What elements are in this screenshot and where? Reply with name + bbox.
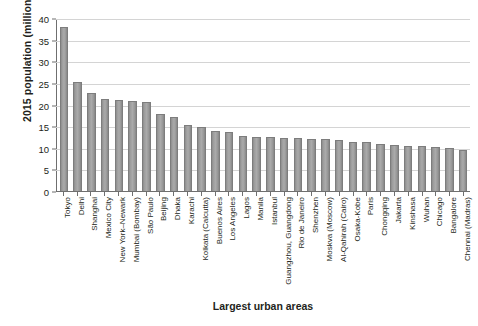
x-axis-tick-mark [159,192,160,196]
x-label-slot: Mumbai (Bombay) [125,197,139,292]
x-axis-tick-mark [284,192,285,196]
bar [376,144,385,191]
bar-slot [332,19,346,191]
x-axis-tick-mark [215,192,216,196]
x-tick-slot [373,192,387,196]
bar [294,138,303,191]
x-label-slot: Chennai (Madras) [456,197,470,292]
bar [307,139,316,191]
bar-slot [387,19,401,191]
bar-slot [112,19,126,191]
bar-slot [360,19,374,191]
x-label-slot: Osaka-Kobe [346,197,360,292]
bar [431,147,440,191]
x-axis-tick-mark [228,192,229,196]
bar [115,100,124,191]
y-axis-title: 2015 population (millions) [21,0,33,151]
bar [239,136,248,191]
x-label-slot: Bangalore [442,197,456,292]
x-axis-tick-mark [201,192,202,196]
bar [252,137,261,191]
x-axis-tick-mark [380,192,381,196]
x-label-slot: São Paulo [139,197,153,292]
x-axis-tick-mark [449,192,450,196]
bar-slot [181,19,195,191]
bar-slot [346,19,360,191]
x-tick-slot [249,192,263,196]
bar [170,117,179,191]
x-tick-slot [387,192,401,196]
bar [101,99,110,191]
bar-slot [195,19,209,191]
x-tick-slot [194,192,208,196]
y-axis-tick-mark [52,40,56,41]
x-label-slot: Wuhan [415,197,429,292]
x-axis-tick-mark [242,192,243,196]
x-axis-tick-mark [146,192,147,196]
plot-area: 0510152025303540 [56,19,470,192]
bar-slot [85,19,99,191]
x-tick-slot [442,192,456,196]
y-axis-tick-mark [52,170,56,171]
y-axis-tick-mark [52,148,56,149]
x-label-slot: Beijing [153,197,167,292]
x-label-slot: Kinshasa [401,197,415,292]
x-label-slot: Manila [249,197,263,292]
x-tick-slot [429,192,443,196]
x-label-slot: Buenos Aires [208,197,222,292]
bar [280,138,289,191]
x-label-slot: Chicago [429,197,443,292]
x-axis-tick-label: Chennai (Madras) [463,197,472,261]
x-tick-slot [222,192,236,196]
x-label-slot: Al-Qahirah (Cairo) [332,197,346,292]
x-label-slot: Guangzhou, Guangdong [277,197,291,292]
bar [142,102,151,191]
x-tick-slot [456,192,470,196]
x-tick-slot [111,192,125,196]
x-tick-slot [360,192,374,196]
x-label-slot: Karachi [180,197,194,292]
x-label-slot: Dhaka [166,197,180,292]
x-axis-title: Largest urban areas [56,300,470,312]
x-tick-slot [346,192,360,196]
x-tick-slot [97,192,111,196]
x-axis-tick-mark [77,192,78,196]
x-axis-tick-mark [270,192,271,196]
bar-slot [236,19,250,191]
bar-slot [291,19,305,191]
x-tick-slot [139,192,153,196]
bar [445,148,454,191]
x-axis-tick-mark [353,192,354,196]
bar-slot [250,19,264,191]
bar-chart-figure: 2015 population (millions) 0510152025303… [0,0,478,326]
x-axis-tick-mark [173,192,174,196]
bar [225,132,234,191]
x-label-slot: Tokyo [56,197,70,292]
x-label-slot: New York–Newark [111,197,125,292]
bar-slot [57,19,71,191]
x-tick-slot [415,192,429,196]
x-label-slot: Paris [360,197,374,292]
x-axis-tick-mark [104,192,105,196]
bar-slot [153,19,167,191]
x-axis-tick-labels: TokyoDelhiShanghaiMexico CityNew York–Ne… [56,197,470,292]
x-axis-tick-mark [394,192,395,196]
x-axis-tick-mark [90,192,91,196]
bar [362,142,371,191]
x-axis-tick-mark [256,192,257,196]
bar-slot [415,19,429,191]
bar-slot [222,19,236,191]
x-tick-slot [208,192,222,196]
x-label-slot: Lagos [235,197,249,292]
x-tick-slot [291,192,305,196]
bar [349,142,358,191]
bar-slot [140,19,154,191]
bar-series [57,19,470,191]
x-label-slot: Los Angeles [222,197,236,292]
bar [390,145,399,191]
bar-slot [401,19,415,191]
x-label-slot: Moskva (Moscow) [318,197,332,292]
x-tick-slot [70,192,84,196]
x-axis-tick-mark [422,192,423,196]
bar [156,114,165,191]
